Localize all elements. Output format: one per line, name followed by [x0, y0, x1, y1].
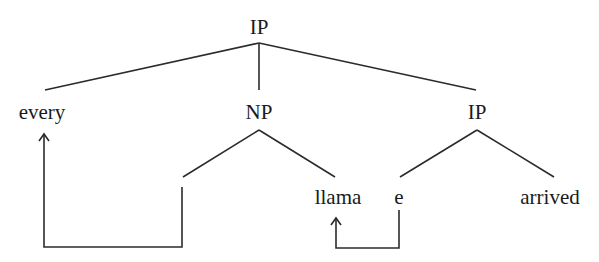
node-root-ip: IP [250, 15, 269, 39]
edge-np-to-llama [259, 130, 335, 177]
movement-arrow-e-to-llama [336, 210, 399, 248]
node-trace-e: e [394, 185, 403, 209]
movement-arrow-gap-to-every [44, 134, 182, 247]
node-np: NP [246, 100, 273, 124]
node-inner-ip: IP [468, 100, 487, 124]
edge-ip-to-trace [400, 130, 477, 177]
node-arrived: arrived [520, 185, 580, 209]
edge-np-to-gap [183, 130, 259, 177]
syntax-tree-diagram: IP every NP IP llama e arrived [0, 0, 599, 262]
edge-ip-to-arrived [477, 130, 554, 177]
edge-root-to-every [45, 43, 259, 90]
node-llama: llama [315, 185, 362, 209]
edge-root-to-ip [259, 43, 476, 90]
node-every: every [19, 100, 66, 124]
